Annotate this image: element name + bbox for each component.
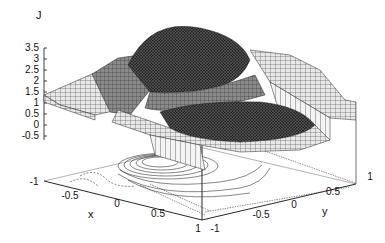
y-tick: -0.5 <box>252 209 270 220</box>
z-tick: 2 <box>33 75 39 86</box>
y-axis: -1 -0.5 0 0.5 1 y <box>211 171 374 234</box>
surface-plot: J 3.5 3 2.5 2 1.5 1 0.5 0 -0.5 <box>0 0 385 243</box>
z-tick: 1.5 <box>25 86 39 97</box>
y-tick: 0 <box>291 199 297 210</box>
y-axis-label: y <box>322 205 328 217</box>
z-tick: 0 <box>33 119 39 130</box>
surface-mesh <box>44 26 356 170</box>
z-tick: 3 <box>33 53 39 64</box>
x-tick: 1 <box>195 223 201 234</box>
z-axis: 3.5 3 2.5 2 1.5 1 0.5 0 -0.5 <box>22 42 47 141</box>
x-tick: -1 <box>30 176 39 187</box>
y-tick: 0.5 <box>326 186 340 197</box>
x-tick: -0.5 <box>61 190 79 201</box>
base-contours <box>70 150 355 215</box>
x-tick: 0 <box>114 198 120 209</box>
z-axis-label: J <box>36 9 42 21</box>
x-axis: -1 -0.5 0 0.5 1 x <box>30 176 202 234</box>
x-tick: 0.5 <box>151 208 165 219</box>
z-tick: -0.5 <box>22 130 40 141</box>
z-tick: 1 <box>33 97 39 108</box>
y-tick: -1 <box>211 223 220 234</box>
z-tick: 0.5 <box>25 108 39 119</box>
y-tick: 1 <box>367 171 373 182</box>
z-tick: 3.5 <box>25 42 39 53</box>
z-tick: 2.5 <box>25 64 39 75</box>
x-axis-label: x <box>88 208 94 220</box>
